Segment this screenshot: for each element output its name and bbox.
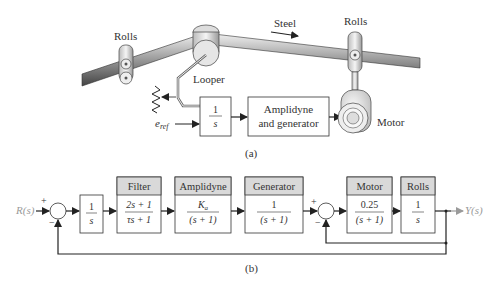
label-steel: Steel <box>274 17 296 29</box>
right-rolls-icon <box>348 32 362 90</box>
block-rolls: Rolls 1 s <box>401 177 435 233</box>
label-looper: Looper <box>193 73 225 85</box>
block-amplidyne-generator: Amplidyne and generator <box>248 97 329 136</box>
caption-a: (a) <box>245 147 258 160</box>
block-integrator-a: 1 s <box>200 97 231 136</box>
svg-text:(s + 1): (s + 1) <box>189 214 217 226</box>
svg-text:Rolls: Rolls <box>407 181 429 192</box>
svg-text:1: 1 <box>272 199 277 210</box>
svg-text:τs + 1: τs + 1 <box>127 214 151 225</box>
block-motor: Motor 0.25 (s + 1) <box>347 177 392 233</box>
svg-text:1: 1 <box>89 201 94 212</box>
svg-text:+: + <box>311 196 317 207</box>
svg-text:1: 1 <box>416 199 421 210</box>
potentiometer-icon <box>152 86 160 113</box>
svg-text:Amplidyne: Amplidyne <box>179 181 227 192</box>
svg-text:Motor: Motor <box>356 181 383 192</box>
svg-text:s: s <box>90 215 94 226</box>
block-amplidyne: Amplidyne Ka (s + 1) <box>175 177 231 233</box>
block-integrator: 1 s <box>80 195 103 233</box>
output-label: Y(s) <box>465 204 483 217</box>
figure-a: Rolls Looper eref 1 s Amplidyne and g <box>82 15 420 160</box>
svg-text:0.25: 0.25 <box>361 199 379 210</box>
input-label: R(s) <box>15 204 35 217</box>
svg-text:+: + <box>41 195 47 206</box>
svg-text:Filter: Filter <box>128 181 151 192</box>
looper-icon <box>178 25 219 106</box>
label-eref: eref <box>155 117 170 131</box>
label-motor: Motor <box>377 116 405 128</box>
block-filter: Filter 2s + 1 τs + 1 <box>117 177 161 233</box>
svg-text:(s + 1): (s + 1) <box>260 214 288 226</box>
motor-icon <box>338 90 371 133</box>
svg-text:and generator: and generator <box>258 117 318 129</box>
svg-text:1: 1 <box>213 104 218 115</box>
svg-text:s: s <box>214 118 218 129</box>
caption-b: (b) <box>245 262 258 275</box>
svg-text:−: − <box>315 217 321 228</box>
label-rolls-left: Rolls <box>114 30 137 42</box>
svg-text:2s + 1: 2s + 1 <box>126 199 152 210</box>
svg-text:(s + 1): (s + 1) <box>356 214 384 226</box>
svg-text:s: s <box>416 214 420 225</box>
figure-b: R(s) + − 1 s Filter 2s + 1 τs + 1 <box>15 177 483 275</box>
label-rolls-right: Rolls <box>344 15 367 27</box>
block-generator: Generator 1 (s + 1) <box>245 177 303 233</box>
svg-text:Amplidyne: Amplidyne <box>264 103 314 115</box>
svg-text:Generator: Generator <box>253 181 295 192</box>
left-rolls-icon <box>119 45 133 84</box>
steel-rolling-diagram: Rolls Looper eref 1 s Amplidyne and g <box>0 0 491 283</box>
svg-text:−: − <box>49 217 55 228</box>
